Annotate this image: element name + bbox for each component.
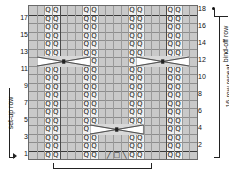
chart-cell-twisted-knit: Q	[52, 32, 60, 41]
row-number-left: 17	[20, 14, 28, 22]
chart-cell-twisted-knit: Q	[44, 83, 52, 92]
chart-cell	[98, 15, 106, 24]
chart-cell	[113, 66, 121, 75]
chart-cell-twisted-knit: Q	[82, 142, 90, 151]
chart-cell	[182, 83, 190, 92]
chart-cell	[151, 108, 159, 117]
chart-cell	[105, 74, 113, 83]
chart-cell-twisted-knit: Q	[174, 134, 182, 143]
chart-cell-twisted-knit: Q	[136, 117, 144, 126]
chart-cell	[37, 108, 45, 117]
chart-cell	[67, 108, 75, 117]
chart-cell-twisted-knit: Q	[174, 66, 182, 75]
chart-cell	[60, 117, 68, 126]
chart-cell	[159, 32, 167, 41]
chart-cell	[60, 66, 68, 75]
chart-cell	[29, 57, 37, 66]
chart-cell	[151, 49, 159, 58]
chart-cell-twisted-knit: Q	[166, 91, 174, 100]
chart-cell	[67, 15, 75, 24]
chart-cell-twisted-knit: Q	[52, 100, 60, 109]
chart-cell	[189, 83, 197, 92]
chart-cell	[37, 74, 45, 83]
chart-cell-twisted-knit: Q	[90, 134, 98, 143]
chart-cell	[151, 142, 159, 151]
chart-cell-twisted-knit: Q	[52, 91, 60, 100]
chart-cell-twisted-knit: Q	[174, 100, 182, 109]
chart-cell	[60, 23, 68, 32]
chart-cell-twisted-knit: Q	[52, 117, 60, 126]
chart-cell	[98, 108, 106, 117]
chart-cell	[29, 100, 37, 109]
chart-cell	[159, 125, 167, 134]
chart-cell	[113, 6, 121, 15]
chart-cell	[37, 15, 45, 24]
chart-cell	[151, 23, 159, 32]
chart-cell	[159, 23, 167, 32]
chart-cell-twisted-knit: Q	[166, 117, 174, 126]
chart-cell	[29, 151, 37, 160]
chart-cell	[113, 134, 121, 143]
chart-cell-twisted-knit: Q	[82, 100, 90, 109]
chart-cell-twisted-knit: Q	[174, 6, 182, 15]
chart-cell	[67, 74, 75, 83]
chart-cell	[105, 15, 113, 24]
chart-cell	[75, 151, 83, 160]
chart-cell	[121, 23, 129, 32]
chart-cell	[60, 108, 68, 117]
chart-cell	[67, 151, 75, 160]
chart-cell-twisted-knit: Q	[136, 134, 144, 143]
chart-cell-twisted-knit: Q	[44, 91, 52, 100]
chart-cell	[75, 134, 83, 143]
chart-cell-twisted-knit: Q	[128, 151, 136, 160]
chart-cell	[182, 142, 190, 151]
chart-cell-twisted-knit: Q	[166, 134, 174, 143]
chart-cell-twisted-knit: Q	[44, 134, 52, 143]
chart-cell	[60, 49, 68, 58]
chart-cell-twisted-knit: Q	[136, 100, 144, 109]
chart-cell-twisted-knit: Q	[136, 32, 144, 41]
chart-cell	[105, 6, 113, 15]
chart-cell	[113, 142, 121, 151]
chart-cell	[29, 23, 37, 32]
chart-cell-twisted-knit: Q	[82, 91, 90, 100]
chart-cell	[29, 6, 37, 15]
row-number-right: 12	[198, 56, 214, 64]
chart-cell	[37, 134, 45, 143]
chart-cell-twisted-knit: Q	[128, 134, 136, 143]
chart-cell-twisted-knit: Q	[90, 66, 98, 75]
chart-cell-twisted-knit: Q	[82, 108, 90, 117]
chart-cell	[159, 91, 167, 100]
chart-cell-twisted-knit: Q	[136, 91, 144, 100]
chart-cell	[159, 6, 167, 15]
chart-cell-twisted-knit: Q	[44, 49, 52, 58]
chart-cell-twisted-knit: Q	[174, 83, 182, 92]
chart-cell	[189, 32, 197, 41]
chart-cell-twisted-knit: Q	[174, 23, 182, 32]
chart-cell	[67, 6, 75, 15]
chart-cell	[37, 6, 45, 15]
chart-cell-twisted-knit: Q	[52, 66, 60, 75]
chart-cell	[189, 40, 197, 49]
chart-cell-twisted-knit: Q	[90, 83, 98, 92]
chart-cell	[189, 15, 197, 24]
chart-cell	[144, 6, 152, 15]
chart-cell	[189, 57, 197, 66]
row-number-right: 14	[198, 39, 214, 47]
chart-cell	[105, 66, 113, 75]
chart-cell-twisted-knit: Q	[82, 74, 90, 83]
chart-cell-twisted-knit: Q	[166, 49, 174, 58]
chart-cell	[98, 83, 106, 92]
chart-cell	[121, 49, 129, 58]
chart-cell-twisted-knit: Q	[82, 49, 90, 58]
chart-cell	[67, 142, 75, 151]
chart-cell	[29, 117, 37, 126]
chart-cell	[67, 100, 75, 109]
chart-cell	[60, 83, 68, 92]
chart-cell	[67, 23, 75, 32]
chart-cell-twisted-knit: Q	[52, 83, 60, 92]
knitting-chart-figure: set-up row 1715131197531 18161412108642 …	[0, 0, 229, 174]
chart-cell-twisted-knit: Q	[90, 100, 98, 109]
chart-cell	[144, 125, 152, 134]
chart-cell	[75, 83, 83, 92]
